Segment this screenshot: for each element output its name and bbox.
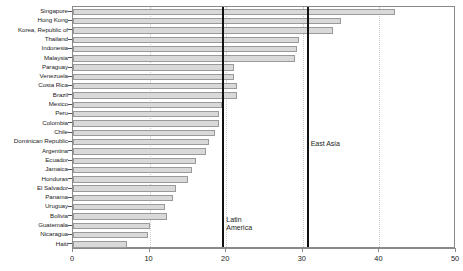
- bar: [73, 83, 237, 89]
- reference-line-latin-america: [222, 7, 224, 247]
- category-label: Jamaica: [0, 164, 68, 174]
- bar: [73, 158, 196, 164]
- category-label: Mexico: [0, 99, 68, 109]
- y-tick: [68, 178, 72, 179]
- bar-row: [73, 16, 456, 26]
- category-label: Guatemala: [0, 220, 68, 230]
- annotation-latin-america: Latin America: [226, 216, 252, 233]
- category-label: Peru: [0, 108, 68, 118]
- bar: [73, 92, 237, 98]
- category-label: Malaysia: [0, 53, 68, 63]
- bar: [73, 111, 219, 117]
- y-tick: [68, 20, 72, 21]
- y-tick: [68, 57, 72, 58]
- category-label: Venezuela: [0, 71, 68, 81]
- bar-row: [73, 128, 456, 138]
- bar: [73, 139, 209, 145]
- bar: [73, 64, 234, 70]
- y-tick: [68, 39, 72, 40]
- bar: [73, 102, 222, 108]
- bar: [73, 130, 215, 136]
- bar-row: [73, 26, 456, 36]
- bar: [73, 223, 150, 229]
- bar-row: [73, 193, 456, 203]
- category-axis: SingaporeHong KongKorea, Republic ofThai…: [0, 6, 68, 248]
- bar-row: [73, 156, 456, 166]
- y-tick: [68, 113, 72, 114]
- y-tick: [68, 48, 72, 49]
- category-label: Haiti: [0, 239, 68, 249]
- y-tick: [68, 215, 72, 216]
- bar-row: [73, 100, 456, 110]
- x-tick-label: 50: [451, 254, 459, 263]
- bar-row: [73, 165, 456, 175]
- category-label: Dominican Republic: [0, 136, 68, 146]
- x-tick-label: 0: [70, 254, 74, 263]
- annotation-east-asia: East Asia: [311, 140, 340, 148]
- category-label: Costa Rica: [0, 80, 68, 90]
- bar: [73, 120, 219, 126]
- bar-row: [73, 221, 456, 231]
- bar: [73, 185, 176, 191]
- category-label: Uruguay: [0, 201, 68, 211]
- y-tick: [68, 67, 72, 68]
- bar-row: [73, 109, 456, 119]
- category-label: Paraguay: [0, 62, 68, 72]
- x-tick-label: 40: [374, 254, 382, 263]
- category-label: Indonesia: [0, 43, 68, 53]
- category-label: Thailand: [0, 34, 68, 44]
- y-tick: [68, 141, 72, 142]
- category-label: Hong Kong: [0, 15, 68, 25]
- y-tick: [68, 225, 72, 226]
- bar-row: [73, 175, 456, 185]
- category-label: Chile: [0, 127, 68, 137]
- x-tick-label: 30: [298, 254, 306, 263]
- y-tick: [68, 234, 72, 235]
- bar: [73, 18, 341, 24]
- x-tick-30: [302, 248, 303, 252]
- plot-area: [72, 6, 455, 248]
- bar-row: [73, 81, 456, 91]
- category-label: Colombia: [0, 118, 68, 128]
- x-tick-label: 20: [221, 254, 229, 263]
- y-tick: [68, 169, 72, 170]
- bar: [73, 195, 173, 201]
- bar: [73, 74, 234, 80]
- bar-row: [73, 44, 456, 54]
- bar-row: [73, 147, 456, 157]
- bar-row: [73, 54, 456, 64]
- bar: [73, 241, 127, 247]
- y-tick: [68, 104, 72, 105]
- category-label: Singapore: [0, 6, 68, 16]
- bar: [73, 37, 299, 43]
- bar-row: [73, 230, 456, 240]
- bar-row: [73, 119, 456, 129]
- reference-line-east-asia: [307, 7, 309, 247]
- category-label: Brazil: [0, 90, 68, 100]
- y-tick: [68, 29, 72, 30]
- bar-row: [73, 35, 456, 45]
- y-tick: [68, 94, 72, 95]
- bar: [73, 204, 165, 210]
- bar: [73, 46, 297, 52]
- y-tick: [68, 122, 72, 123]
- bar-row: [73, 72, 456, 82]
- category-label: El Salvador: [0, 183, 68, 193]
- y-tick: [68, 11, 72, 12]
- bar: [73, 213, 167, 219]
- bar: [73, 176, 188, 182]
- bar-row: [73, 202, 456, 212]
- x-tick-20: [225, 248, 226, 252]
- y-tick: [68, 150, 72, 151]
- bar: [73, 55, 295, 61]
- category-label: Nicaragua: [0, 229, 68, 239]
- bar-chart: SingaporeHong KongKorea, Republic ofThai…: [0, 0, 463, 271]
- bar: [73, 148, 206, 154]
- y-tick: [68, 160, 72, 161]
- category-label: Panama: [0, 192, 68, 202]
- bar-row: [73, 137, 456, 147]
- bar-row: [73, 91, 456, 101]
- category-label: Argentina: [0, 146, 68, 156]
- bar: [73, 167, 192, 173]
- y-tick: [68, 197, 72, 198]
